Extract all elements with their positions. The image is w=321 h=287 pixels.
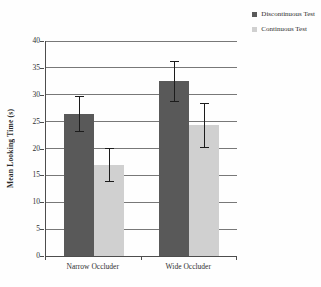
- x-tick-mark: [45, 257, 46, 260]
- gridline: [46, 67, 237, 68]
- y-axis-title: Mean Looking Time (s): [6, 41, 17, 256]
- error-bar-cap-bottom: [75, 131, 84, 132]
- y-tick-label: 5: [18, 225, 40, 233]
- error-bar-line: [204, 103, 205, 147]
- bar-chart-figure: Discontinuous TestContinuous Test Mean L…: [0, 0, 321, 287]
- error-bar-line: [174, 61, 175, 101]
- legend-label: Discontinuous Test: [261, 10, 315, 18]
- plot-area: [45, 41, 237, 257]
- legend-swatch-icon: [252, 27, 257, 32]
- y-tick-label: 0: [18, 252, 40, 260]
- y-tick-label: 30: [18, 91, 40, 99]
- y-tick-mark: [40, 229, 44, 230]
- legend-label: Continuous Test: [261, 25, 306, 33]
- legend-item: Discontinuous Test: [252, 10, 315, 18]
- x-category-label: Narrow Occluder: [45, 262, 141, 271]
- y-tick-mark: [40, 41, 44, 42]
- y-tick-label: 35: [18, 64, 40, 72]
- y-tick-label: 15: [18, 171, 40, 179]
- gridline: [46, 94, 237, 95]
- error-bar-line: [109, 148, 110, 181]
- error-bar-cap-bottom: [105, 181, 114, 182]
- y-tick-mark: [40, 149, 44, 150]
- error-bar-line: [79, 96, 80, 130]
- error-bar-cap-top: [170, 61, 179, 62]
- legend-swatch-icon: [252, 12, 257, 17]
- y-tick-mark: [40, 122, 44, 123]
- error-bar-cap-top: [105, 148, 114, 149]
- error-bar-cap-top: [200, 103, 209, 104]
- error-bar-cap-bottom: [200, 147, 209, 148]
- chart-legend: Discontinuous TestContinuous Test: [252, 10, 315, 33]
- y-tick-mark: [40, 68, 44, 69]
- y-tick-label: 20: [18, 145, 40, 153]
- bar-wide-discontinuous: [159, 81, 189, 256]
- legend-item: Continuous Test: [252, 25, 315, 33]
- y-tick-mark: [40, 175, 44, 176]
- y-tick-label: 25: [18, 118, 40, 126]
- gridline: [46, 41, 237, 42]
- x-category-label: Wide Occluder: [140, 262, 236, 271]
- y-tick-label: 10: [18, 198, 40, 206]
- error-bar-cap-top: [75, 96, 84, 97]
- y-tick-mark: [40, 95, 44, 96]
- y-tick-label: 40: [18, 37, 40, 45]
- x-tick-mark: [236, 257, 237, 260]
- bar-narrow-discontinuous: [64, 114, 94, 256]
- x-tick-mark: [141, 257, 142, 260]
- error-bar-cap-bottom: [170, 101, 179, 102]
- y-tick-mark: [40, 202, 44, 203]
- y-tick-mark: [40, 256, 44, 257]
